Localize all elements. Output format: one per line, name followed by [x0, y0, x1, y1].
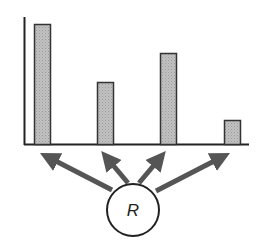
arrow-to-bar-1 — [48, 157, 112, 190]
arrow-to-bar-2 — [107, 158, 128, 183]
r-node-label: R — [127, 201, 139, 220]
bar-2 — [98, 83, 114, 145]
arrow-to-bar-4 — [156, 157, 222, 191]
arrow-to-bar-3 — [139, 158, 160, 183]
bars — [35, 25, 241, 145]
bar-1 — [35, 25, 51, 145]
bar-3 — [161, 54, 177, 145]
diagram-canvas: R — [0, 0, 259, 240]
bar-4 — [225, 121, 241, 145]
